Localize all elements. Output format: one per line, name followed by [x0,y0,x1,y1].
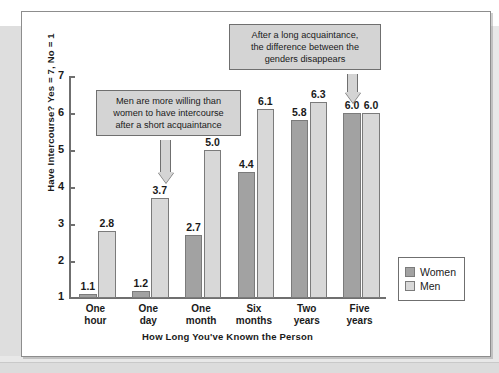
x-category-label-4: Two years [280,303,333,326]
legend-label-women: Women [420,266,456,278]
legend-swatch-men-icon [405,281,415,291]
x-category-label-5: Five years [333,303,386,326]
bar-women-4 [291,120,309,298]
value-label-men-0: 2.8 [95,218,119,229]
bar-men-2 [204,150,222,298]
legend-item-men: Men [405,280,456,292]
value-label-men-5: 6.0 [359,100,383,111]
bar-men-4 [310,102,328,298]
bar-men-0 [98,231,116,298]
x-category-label-2: One month [175,303,228,326]
y-tick-label-2: 2 [50,255,64,266]
page-bottom-band [0,362,499,373]
annotation-short-acquaintance: Men are more willing than women to have … [96,90,241,136]
bar-women-3 [238,172,256,298]
value-label-women-1: 1.2 [129,278,153,289]
value-label-men-1: 3.7 [148,185,172,196]
bar-men-5 [362,113,380,298]
value-label-men-3: 6.1 [254,96,278,107]
bar-women-5 [343,113,361,298]
y-tick-label-6: 6 [50,107,64,118]
value-label-women-0: 1.1 [76,281,100,292]
figure-panel: Have Intercourse? Yes = 7, No = 1 7 6 5 … [21,11,491,357]
bar-chart: Have Intercourse? Yes = 7, No = 1 7 6 5 … [22,12,490,356]
legend-swatch-women-icon [405,267,415,277]
x-category-label-0: One hour [69,303,122,326]
legend-item-women: Women [405,266,456,278]
page-left-band [0,26,22,356]
y-tick-label-1: 1 [50,291,64,302]
value-label-women-3: 4.4 [235,159,259,170]
value-label-men-4: 6.3 [307,89,331,100]
annotation-short-acquaintance-arrow-stem [160,140,171,172]
value-label-women-4: 5.8 [288,107,312,118]
bar-women-0 [79,294,97,298]
value-label-women-2: 2.7 [182,222,206,233]
legend-label-men: Men [420,280,440,292]
annotation-long-acquaintance: After a long acquaintance, the differenc… [229,24,381,70]
value-label-men-2: 5.0 [201,137,225,148]
bar-men-3 [257,109,275,298]
x-category-label-1: One day [122,303,175,326]
bar-women-2 [185,235,203,298]
bar-women-1 [132,291,150,298]
annotation-long-acquaintance-arrow-stem [347,74,358,92]
y-tick-label-4: 4 [50,181,64,192]
x-axis-title: How Long You've Known the Person [69,331,386,342]
y-tick-label-5: 5 [50,144,64,155]
x-category-label-3: Six months [228,303,281,326]
bar-men-1 [151,198,169,298]
annotation-short-acquaintance-arrow-head [158,172,174,183]
y-tick-label-7: 7 [50,70,64,81]
legend: Women Men [398,257,465,301]
y-tick-label-3: 3 [50,218,64,229]
